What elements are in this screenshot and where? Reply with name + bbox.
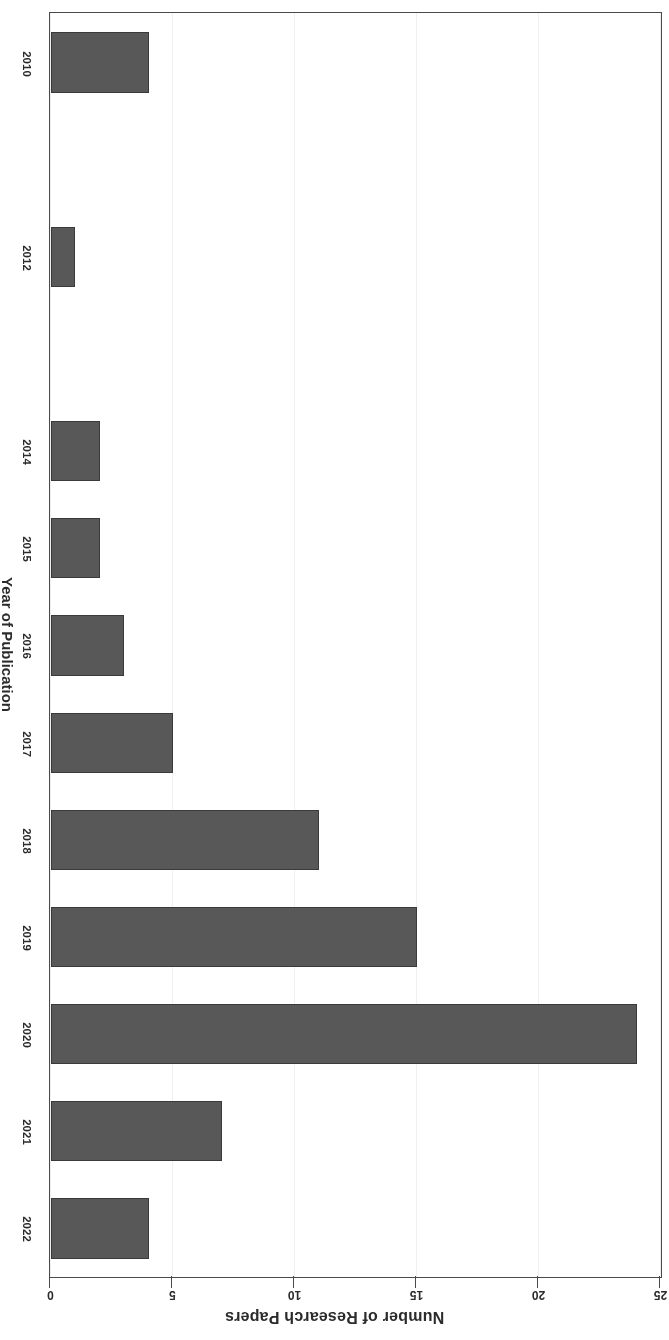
bar-2014[interactable]	[51, 421, 100, 481]
bar-2022[interactable]	[51, 1198, 149, 1258]
gridline-15	[416, 13, 417, 1277]
category-label-2017: 2017	[7, 736, 47, 752]
category-label-text-2017: 2017	[19, 731, 35, 757]
category-label-2022: 2022	[7, 1221, 47, 1237]
category-label-text-2020: 2020	[19, 1022, 35, 1048]
bar-chart-figure: Number of Research Papers 0510152025 Yea…	[0, 0, 669, 1340]
gridline-5	[172, 13, 173, 1277]
category-label-text-2015: 2015	[19, 537, 35, 563]
gridline-10	[294, 13, 295, 1277]
bar-2021[interactable]	[51, 1101, 222, 1161]
value-axis-tick-label-0: 0	[47, 1288, 54, 1302]
bar-2020[interactable]	[51, 1004, 637, 1064]
bar-2019[interactable]	[51, 907, 417, 967]
category-label-text-2021: 2021	[19, 1119, 35, 1145]
category-label-2021: 2021	[7, 1124, 47, 1140]
category-label-text-2014: 2014	[19, 439, 35, 465]
category-label-text-2012: 2012	[19, 245, 35, 271]
bar-2015[interactable]	[51, 518, 100, 578]
value-axis-tick-label-25: 25	[654, 1288, 667, 1302]
chart-figure-rotator: Number of Research Papers 0510152025 Yea…	[0, 0, 669, 1340]
value-axis-tick-20	[537, 1276, 539, 1288]
category-label-text-2016: 2016	[19, 634, 35, 660]
value-axis-tick-label-10: 10	[288, 1288, 301, 1302]
value-axis-tick-25	[659, 1276, 661, 1288]
value-axis-tick-labels: 0510152025	[0, 1280, 669, 1302]
value-axis-tick-label-15: 15	[410, 1288, 423, 1302]
category-label-text-2022: 2022	[19, 1217, 35, 1243]
value-axis-tick-10	[293, 1276, 295, 1288]
category-label-2019: 2019	[7, 930, 47, 946]
category-label-text-2018: 2018	[19, 828, 35, 854]
category-label-2020: 2020	[7, 1027, 47, 1043]
category-label-2016: 2016	[7, 639, 47, 655]
plot-inner	[50, 13, 661, 1277]
value-axis-tick-label-20: 20	[532, 1288, 545, 1302]
value-axis-title: Number of Research Papers	[0, 1308, 669, 1326]
bar-2018[interactable]	[51, 810, 319, 870]
gridline-25	[660, 13, 661, 1277]
category-label-2015: 2015	[7, 541, 47, 557]
plot-area	[49, 12, 662, 1278]
bar-2012[interactable]	[51, 227, 75, 287]
value-axis-tick-label-5: 5	[169, 1288, 176, 1302]
bar-2017[interactable]	[51, 713, 173, 773]
category-label-2012: 2012	[7, 250, 47, 266]
value-axis-tick-0	[49, 1276, 51, 1288]
category-label-2010: 2010	[7, 56, 47, 72]
category-axis: Year of Publication 20102012201420152016…	[0, 12, 47, 1278]
category-label-2014: 2014	[7, 444, 47, 460]
gridline-20	[538, 13, 539, 1277]
bar-2016[interactable]	[51, 615, 124, 675]
category-label-text-2019: 2019	[19, 925, 35, 951]
bar-2010[interactable]	[51, 32, 149, 92]
category-label-text-2010: 2010	[19, 51, 35, 77]
value-axis-tick-15	[415, 1276, 417, 1288]
category-label-2018: 2018	[7, 833, 47, 849]
value-axis-tick-5	[171, 1276, 173, 1288]
